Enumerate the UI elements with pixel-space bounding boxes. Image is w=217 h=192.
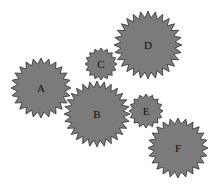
gear-b-label: B [93, 108, 100, 120]
gear-f-label: F [175, 142, 181, 154]
gear-e: E [129, 94, 163, 128]
gear-c: C [85, 48, 117, 80]
gear-d: D [114, 11, 182, 79]
gear-a-label: A [37, 82, 45, 94]
gear-a: A [11, 58, 71, 118]
gear-c-label: C [97, 58, 104, 70]
gear-e-label: E [143, 105, 150, 117]
gear-d-label: D [144, 39, 152, 51]
gear-f: F [148, 118, 208, 178]
gear-diagram: A B C D E F [0, 0, 217, 192]
gear-b: B [64, 81, 130, 147]
